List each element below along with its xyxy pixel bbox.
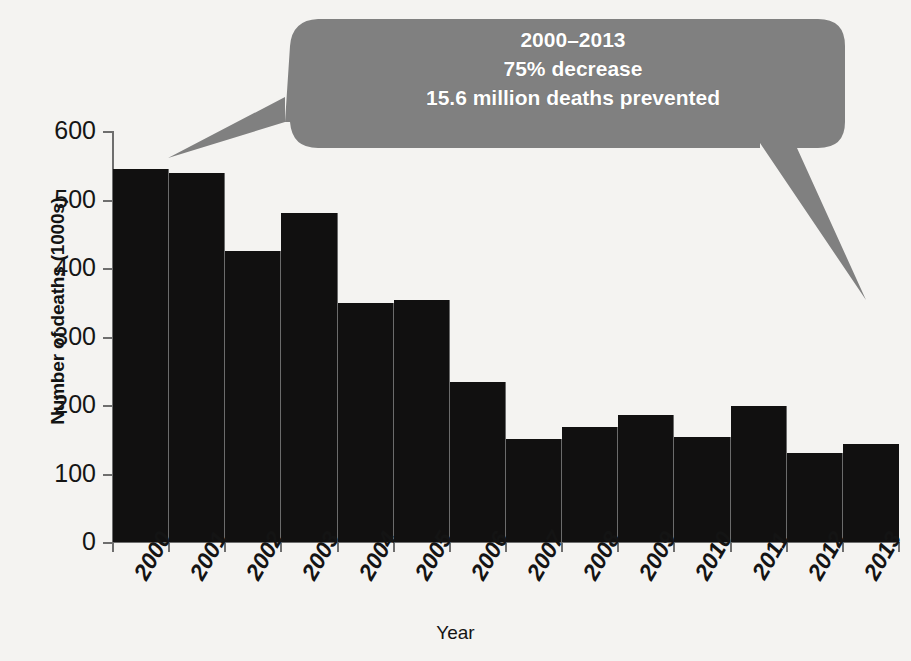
bar-2000[interactable] — [113, 169, 169, 542]
y-axis-tick-labels: 0100200300400500600 — [20, 0, 96, 661]
bar-cell — [843, 131, 899, 542]
bar-cell — [787, 131, 843, 542]
y-axis-tick-label: 500 — [22, 187, 96, 212]
bar-cell — [281, 131, 337, 542]
bar-2008[interactable] — [562, 427, 618, 542]
y-axis-tick-label: 200 — [22, 392, 96, 417]
bar-cell — [506, 131, 562, 542]
bar-2005[interactable] — [394, 300, 450, 542]
bar-cell — [618, 131, 674, 542]
y-axis-tick-mark — [103, 474, 112, 476]
bar-2006[interactable] — [450, 382, 506, 542]
bar-cell — [562, 131, 618, 542]
bar-2010[interactable] — [674, 437, 730, 542]
bar-2009[interactable] — [618, 415, 674, 542]
bar-2011[interactable] — [731, 406, 787, 542]
callout-line-2: 75% decrease — [292, 55, 854, 84]
y-axis-tick-mark — [103, 131, 112, 133]
y-axis-tick-label: 400 — [22, 255, 96, 280]
y-axis-tick-mark — [103, 268, 112, 270]
y-axis-tick-mark — [103, 405, 112, 407]
bar-2012[interactable] — [787, 453, 843, 542]
y-axis-tick-label: 300 — [22, 324, 96, 349]
callout-line-3: 15.6 million deaths prevented — [292, 84, 854, 113]
x-axis-title: Year — [0, 622, 911, 644]
chart-figure: Number of deaths (1000s) 010020030040050… — [0, 0, 911, 661]
bar-cell — [394, 131, 450, 542]
y-axis-tick-mark — [103, 337, 112, 339]
callout-line-1: 2000–2013 — [292, 26, 854, 55]
bar-cell — [674, 131, 730, 542]
bar-2013[interactable] — [843, 444, 899, 542]
bar-2007[interactable] — [506, 439, 562, 542]
bar-cell — [450, 131, 506, 542]
y-axis-tick-mark — [103, 200, 112, 202]
bar-cell — [113, 131, 169, 542]
bar-series — [113, 131, 899, 542]
plot-area — [113, 131, 899, 542]
bar-2003[interactable] — [281, 213, 337, 542]
y-axis-tick-label: 0 — [22, 529, 96, 554]
bar-2004[interactable] — [338, 303, 394, 542]
callout-text: 2000–2013 75% decrease 15.6 million deat… — [292, 26, 854, 113]
bar-cell — [169, 131, 225, 542]
bar-cell — [731, 131, 787, 542]
y-axis-tick-label: 600 — [22, 118, 96, 143]
y-axis-tick-mark — [103, 542, 112, 544]
bar-cell — [338, 131, 394, 542]
bar-2001[interactable] — [169, 173, 225, 542]
bar-2002[interactable] — [225, 251, 281, 542]
y-axis-tick-label: 100 — [22, 461, 96, 486]
bar-cell — [225, 131, 281, 542]
